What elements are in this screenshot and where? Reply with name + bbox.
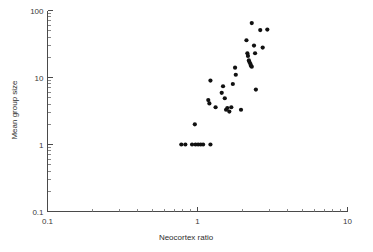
x-tick-label: 0.1	[42, 217, 54, 226]
data-point	[261, 45, 265, 49]
y-tick-label: 1	[39, 141, 44, 150]
data-point	[220, 91, 224, 95]
data-point	[234, 73, 238, 77]
data-point	[179, 142, 183, 146]
data-point	[213, 105, 217, 109]
data-point	[231, 82, 235, 86]
x-tick-label: 1	[195, 217, 200, 226]
data-point	[227, 109, 231, 113]
data-point	[225, 106, 229, 110]
data-point	[233, 66, 237, 70]
data-point	[223, 96, 227, 100]
y-tick-label: 100	[30, 7, 44, 16]
data-point	[252, 43, 256, 47]
data-point	[207, 101, 211, 105]
data-point	[250, 21, 254, 25]
data-point	[250, 65, 254, 69]
y-tick-label: 0.1	[32, 208, 44, 217]
data-point	[254, 87, 258, 91]
data-point	[193, 122, 197, 126]
plot-background	[0, 0, 373, 252]
y-axis-title: Mean group size	[10, 80, 19, 140]
data-point	[258, 28, 262, 32]
data-point	[229, 105, 233, 109]
data-point	[201, 142, 205, 146]
data-point	[208, 78, 212, 82]
x-axis-title: Neocortex ratio	[159, 233, 214, 242]
data-point	[246, 54, 250, 58]
data-point	[239, 108, 243, 112]
data-point	[253, 51, 257, 55]
data-point	[244, 38, 248, 42]
data-point	[208, 142, 212, 146]
data-point	[265, 27, 269, 31]
x-tick-label: 10	[343, 217, 352, 226]
chart-canvas: 0.11101000.1110 Neocortex ratio Mean gro…	[0, 0, 373, 252]
scatter-plot-figure: 0.11101000.1110 Neocortex ratio Mean gro…	[0, 0, 373, 252]
data-point	[183, 142, 187, 146]
y-tick-label: 10	[35, 74, 44, 83]
data-point	[221, 84, 225, 88]
